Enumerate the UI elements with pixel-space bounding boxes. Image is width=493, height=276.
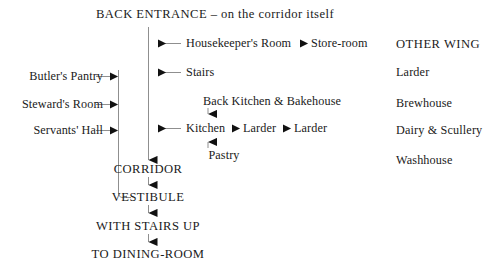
other-wing-room-brewhouse: Brewhouse <box>396 97 452 109</box>
node-to-dining-room: TO DINING-ROOM <box>92 248 205 261</box>
node-store-room: Store-room <box>311 37 368 49</box>
node-back-kitchen-bakehouse: Back Kitchen & Bakehouse <box>203 95 341 107</box>
other-wing-room-dairy-scullery: Dairy & Scullery <box>396 124 482 136</box>
node-larder-far: Larder <box>294 122 327 134</box>
node-pastry: Pastry <box>208 149 239 161</box>
other-wing-room-washhouse: Washhouse <box>396 154 453 166</box>
node-with-stairs-up: WITH STAIRS UP <box>96 220 200 233</box>
node-larder-mid: Larder <box>243 122 276 134</box>
other-wing-heading: OTHER WING <box>396 38 480 51</box>
other-wing-room-larder: Larder <box>396 66 429 78</box>
node-butlers-pantry: Butler's Pantry <box>29 70 103 82</box>
node-vestibule: VESTIBULE <box>112 191 185 204</box>
node-stairs: Stairs <box>186 66 214 78</box>
kitchen-circulation-diagram: BACK ENTRANCE – on the corridor itself H… <box>0 0 493 276</box>
node-kitchen: Kitchen <box>186 122 225 134</box>
diagram-title: BACK ENTRANCE – on the corridor itself <box>96 8 334 21</box>
node-stewards-room: Steward's Room <box>22 98 103 110</box>
node-housekeepers-room: Housekeeper's Room <box>186 37 291 49</box>
node-corridor: CORRIDOR <box>114 163 183 176</box>
node-servants-hall: Servants' Hall <box>33 124 103 136</box>
